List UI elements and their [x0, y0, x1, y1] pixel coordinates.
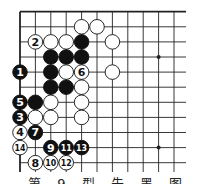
move-number-label: 2 — [32, 36, 40, 49]
black-stone — [74, 50, 89, 65]
white-stone — [74, 110, 89, 125]
white-stone — [44, 35, 59, 50]
white-stone-14: 14 — [13, 140, 28, 155]
move-number-label: 7 — [32, 126, 40, 139]
move-number-label: 6 — [78, 66, 86, 79]
white-stone-10: 10 — [44, 155, 59, 170]
move-number-label: 9 — [47, 142, 55, 155]
black-stone — [28, 95, 43, 110]
star-point-icon — [157, 55, 161, 59]
white-stone — [44, 95, 59, 110]
diagram-caption: 第 9 型 先 黑 图 … 题 — [28, 177, 197, 184]
black-stone-13: 13 — [74, 140, 89, 155]
black-stone — [44, 80, 59, 95]
move-number-label: 4 — [16, 126, 24, 139]
move-number-label: 3 — [16, 111, 24, 124]
white-stone — [105, 35, 120, 50]
black-stone — [44, 50, 59, 65]
move-number-label: 5 — [16, 96, 24, 109]
black-stone-7: 7 — [28, 125, 43, 140]
move-number-label: 1 — [16, 66, 24, 79]
white-stone-4: 4 — [13, 125, 28, 140]
black-stone-3: 3 — [13, 110, 28, 125]
star-point-icon — [157, 146, 161, 150]
white-stone — [74, 20, 89, 35]
white-stone — [59, 35, 74, 50]
white-stone — [59, 65, 74, 80]
move-number-label: 8 — [32, 157, 40, 170]
move-number-label: 10 — [45, 158, 56, 168]
move-number-label: 13 — [76, 143, 87, 153]
move-number-label: 12 — [61, 158, 72, 168]
black-stone — [44, 65, 59, 80]
black-stone-5: 5 — [13, 95, 28, 110]
black-stone-9: 9 — [44, 140, 59, 155]
white-stone-8: 8 — [28, 155, 43, 170]
black-stone — [74, 35, 89, 50]
black-stone — [59, 80, 74, 95]
black-stone-1: 1 — [13, 65, 28, 80]
move-number-label: 14 — [15, 143, 26, 153]
white-stone — [74, 80, 89, 95]
white-stone — [105, 65, 120, 80]
white-stone-2: 2 — [28, 35, 43, 50]
white-stone-12: 12 — [59, 155, 74, 170]
white-stone — [90, 20, 105, 35]
white-stone — [74, 95, 89, 110]
white-stone — [44, 110, 59, 125]
go-board-diagram: 2165347149111381012 — [0, 0, 197, 184]
white-stone-6: 6 — [74, 65, 89, 80]
black-stone-11: 11 — [59, 140, 74, 155]
white-stone — [28, 110, 43, 125]
move-number-label: 11 — [61, 143, 72, 153]
black-stone — [59, 50, 74, 65]
